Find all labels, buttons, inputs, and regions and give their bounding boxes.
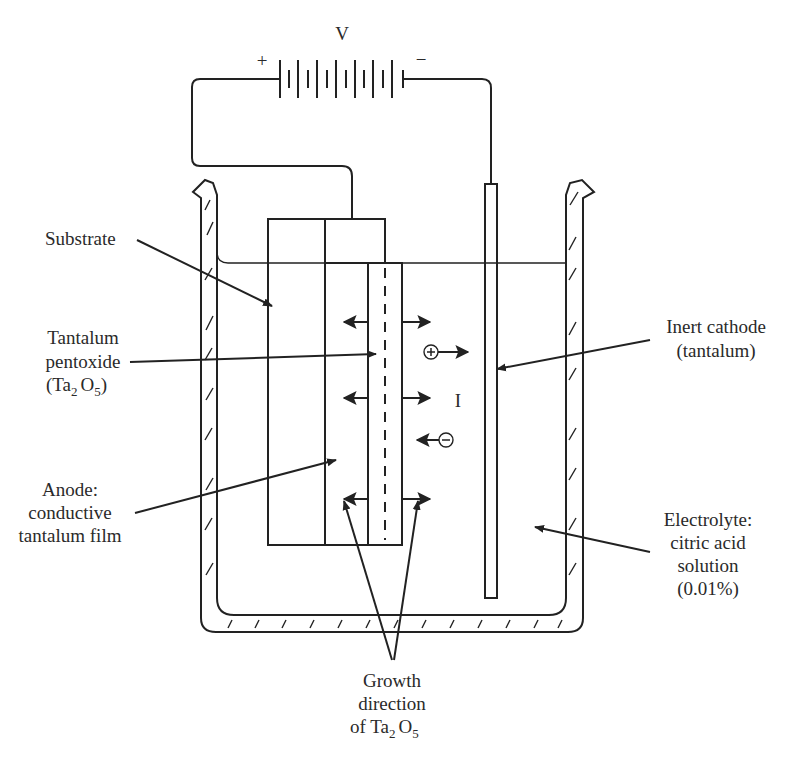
svg-text:citric acid: citric acid — [670, 532, 746, 553]
voltage-label: V — [335, 23, 349, 44]
battery: V + − — [192, 23, 491, 219]
cathode-label: Inert cathode (tantalum) — [666, 316, 766, 362]
svg-text:Electrolyte:: Electrolyte: — [664, 509, 753, 530]
beaker — [193, 180, 594, 632]
cathode-pointer — [497, 340, 650, 369]
negative-wire — [403, 79, 491, 184]
negative-terminal-label: − — [416, 49, 427, 70]
positive-ion — [424, 345, 468, 359]
inert-cathode — [485, 184, 497, 598]
svg-text:Growth: Growth — [363, 670, 422, 691]
negative-ion — [417, 433, 453, 447]
svg-text:Anode:: Anode: — [42, 479, 98, 500]
svg-text:of Ta2O5: of Ta2O5 — [350, 716, 419, 741]
electrolyte-label: Electrolyte: citric acid solution (0.01%… — [664, 509, 753, 600]
anode-pointer — [135, 460, 336, 513]
svg-text:(0.01%): (0.01%) — [677, 578, 739, 600]
anode-label: Anode: conductive tantalum film — [19, 479, 122, 546]
growth-label: Growth direction of Ta2O5 — [350, 670, 426, 741]
svg-text:pentoxide: pentoxide — [46, 351, 121, 372]
electrolyte-surface — [217, 252, 566, 263]
svg-text:tantalum film: tantalum film — [19, 525, 122, 546]
growth-arrows — [344, 322, 430, 499]
oxide-pointer — [130, 354, 376, 362]
current-label: I — [455, 390, 461, 411]
growth-pointer-right — [394, 501, 418, 660]
substrate-label: Substrate — [45, 228, 116, 249]
svg-text:(tantalum): (tantalum) — [676, 340, 755, 362]
svg-text:solution: solution — [677, 555, 739, 576]
svg-text:Tantalum: Tantalum — [47, 327, 119, 348]
anodization-diagram: V + − — [0, 0, 794, 763]
substrate — [268, 219, 325, 545]
oxide-label: Tantalum pentoxide (Ta2O5) — [46, 327, 121, 399]
svg-text:conductive: conductive — [28, 502, 111, 523]
glass-hatching — [205, 192, 578, 628]
svg-text:Inert cathode: Inert cathode — [666, 316, 766, 337]
svg-text:(Ta2O5): (Ta2O5) — [46, 374, 107, 399]
substrate-pointer — [137, 240, 272, 306]
svg-text:direction: direction — [358, 693, 426, 714]
diagram-canvas: V + − — [0, 0, 794, 763]
positive-terminal-label: + — [257, 50, 268, 71]
electrolyte-pointer — [535, 527, 650, 552]
anode-film — [325, 263, 368, 545]
anode-contact — [325, 219, 385, 263]
battery-cells-icon — [280, 60, 403, 98]
